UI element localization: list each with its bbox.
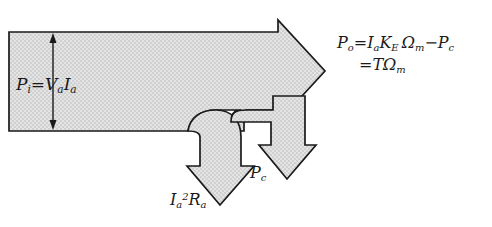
copper-t2: R [189,190,201,209]
copper-t2-sub: a [201,199,207,210]
output-line-2: =TΩm [359,55,454,76]
diagram-canvas: Pi=VaIa Po=IaKE Ωm−Pc =TΩm Ia2Ra Pc [0,0,492,227]
output2-omega-sub: m [396,64,405,75]
output-t4-sub: c [449,42,455,53]
copper-loss-label: Ia2Ra [170,190,207,211]
input-term2-sub: a [70,83,76,95]
output-power-label: Po=IaKE Ωm−Pc =TΩm [337,33,454,76]
output-line-1: Po=IaKE Ωm−Pc [337,33,454,52]
input-power-label: Pi=VaIa [16,74,77,96]
output-t4: P [438,33,449,52]
output2-equals: = [359,55,372,74]
output2-omega: Ω [383,55,396,74]
output-symbol: P [337,33,348,52]
output-minus: − [424,33,437,52]
core-loss-label: Pc [250,163,266,184]
output-equals: = [354,33,367,52]
output-t2-sub: E [391,42,398,53]
output-t2: K [379,33,391,52]
input-equals: = [31,74,45,94]
output-omega: Ω [402,33,415,52]
core-symbol-sub: c [261,172,267,183]
input-term1: V [45,74,57,94]
core-symbol: P [250,163,261,182]
input-symbol: P [16,74,27,94]
output2-t1: T [372,55,383,74]
